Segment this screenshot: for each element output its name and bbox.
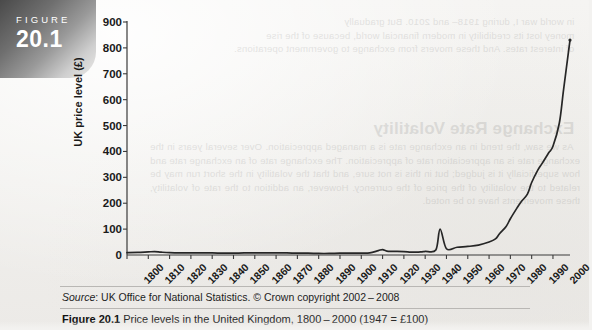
page-edge-fade <box>0 321 589 330</box>
chart-area: UK price level (£) 010020030040050060070… <box>0 0 589 286</box>
series-endpoint-marker <box>568 39 571 42</box>
divider-bottom <box>60 308 530 309</box>
price-level-line <box>127 40 570 253</box>
source-prefix: Source <box>62 291 95 303</box>
divider-top <box>60 286 530 287</box>
chart-plot <box>0 0 589 286</box>
source-note: Source: UK Office for National Statistic… <box>62 291 399 303</box>
source-text: : UK Office for National Statistics. © C… <box>95 291 399 303</box>
